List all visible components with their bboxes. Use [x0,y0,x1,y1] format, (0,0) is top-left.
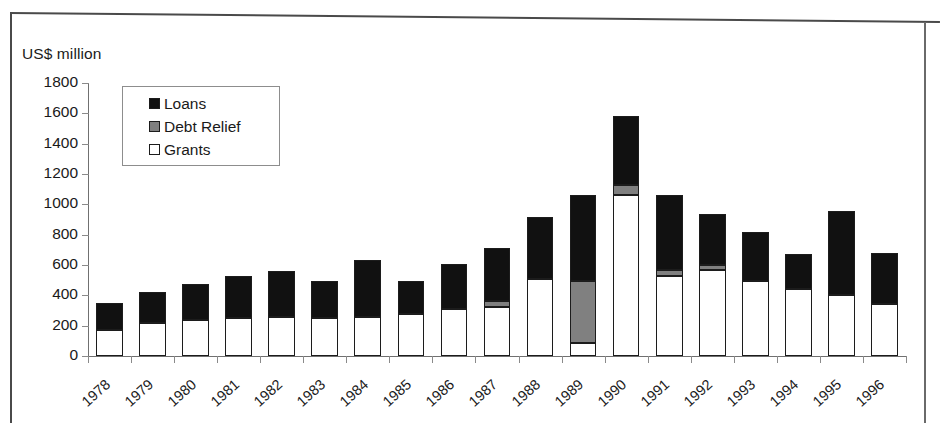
bar-1992 [699,214,726,356]
x-axis-tick [389,356,390,363]
bar-1991 [656,195,683,356]
x-axis-tick-label: 1983 [293,376,328,409]
bar-segment-grants [527,279,554,356]
y-axis-tick [82,174,89,175]
plot-area: 0200400600800100012001400160018001978197… [0,0,940,423]
x-axis-tick-label: 1990 [595,376,630,409]
bar-segment-loans [311,281,338,318]
y-axis-tick [82,83,89,84]
y-axis-tick-label: 800 [8,225,78,243]
bar-segment-grants [871,304,898,356]
bar-1979 [139,292,166,356]
x-axis-tick-label: 1996 [853,376,888,409]
bar-segment-loans [96,303,123,330]
x-axis-tick-label: 1989 [552,376,587,409]
bar-segment-debt-relief [699,265,726,270]
bar-segment-grants [613,195,640,356]
bar-1981 [225,276,252,356]
bar-segment-loans [871,253,898,305]
bar-1987 [484,248,511,356]
y-axis-tick-label: 1800 [8,73,78,91]
x-axis-tick-label: 1984 [336,376,371,409]
bar-segment-loans [484,248,511,301]
y-axis-tick [82,295,89,296]
y-axis-tick-label: 200 [8,316,78,334]
x-axis-tick [303,356,304,363]
bar-segment-debt-relief [570,281,597,343]
bar-segment-debt-relief [613,185,640,196]
bar-segment-loans [139,292,166,322]
bar-segment-grants [96,330,123,356]
bar-segment-grants [182,320,209,356]
x-axis-tick [648,356,649,363]
bar-1983 [311,281,338,356]
bar-1982 [268,271,295,356]
x-axis-tick [691,356,692,363]
bar-segment-grants [398,314,425,356]
x-axis-tick-label: 1995 [810,376,845,409]
bar-segment-debt-relief [484,301,511,308]
bar-segment-loans [785,254,812,290]
x-axis-tick-label: 1992 [681,376,716,409]
legend-label-debt-relief: Debt Relief [164,118,241,136]
y-axis-tick [82,204,89,205]
y-axis-tick-label: 600 [8,255,78,273]
bar-1993 [742,232,769,356]
x-axis-tick-label: 1994 [767,376,802,409]
bar-segment-grants [268,317,295,356]
x-axis-tick-label: 1979 [121,376,156,409]
bar-segment-loans [441,264,468,309]
bar-1978 [96,303,123,356]
x-axis-tick [346,356,347,363]
bar-segment-grants [656,276,683,356]
bar-1986 [441,264,468,356]
bar-1995 [828,211,855,356]
bar-segment-loans [268,271,295,317]
x-axis-tick [820,356,821,363]
x-axis-tick [906,356,907,363]
bar-segment-loans [398,281,425,314]
x-axis-tick [734,356,735,363]
bar-1988 [527,217,554,356]
bar-1984 [354,260,381,356]
x-axis-tick-label: 1991 [638,376,673,409]
chart-figure: US$ million 0200400600800100012001400160… [0,0,940,423]
x-axis-tick-label: 1980 [164,376,199,409]
x-axis-tick-label: 1986 [422,376,457,409]
bar-segment-grants [742,281,769,356]
legend-item-debt-relief: Debt Relief [149,115,279,138]
x-axis-tick-label: 1978 [78,376,113,409]
x-axis-tick [174,356,175,363]
bar-segment-loans [742,232,769,281]
x-axis-tick [432,356,433,363]
bar-segment-loans [699,214,726,265]
legend-item-grants: Grants [149,138,279,161]
y-axis-tick [82,265,89,266]
bar-segment-loans [570,195,597,281]
bar-segment-loans [354,260,381,317]
black-square-icon [149,98,160,109]
chart-legend: Loans Debt Relief Grants [122,86,280,166]
bar-segment-grants [311,318,338,356]
bar-segment-grants [699,270,726,356]
x-axis-tick-label: 1993 [724,376,759,409]
y-axis-tick [82,144,89,145]
y-axis-tick-label: 0 [8,346,78,364]
bar-1994 [785,254,812,356]
bar-segment-grants [570,343,597,356]
legend-label-grants: Grants [164,141,211,159]
bar-1989 [570,195,597,356]
y-axis-tick-label: 1400 [8,134,78,152]
x-axis-tick [777,356,778,363]
y-axis-tick [82,235,89,236]
x-axis-line [88,356,906,357]
bar-segment-debt-relief [656,270,683,276]
x-axis-tick-label: 1981 [207,376,242,409]
bar-segment-loans [527,217,554,279]
x-axis-tick-label: 1987 [465,376,500,409]
bar-1985 [398,281,425,356]
bar-1996 [871,253,898,356]
bar-segment-loans [182,284,209,320]
bar-segment-grants [828,295,855,356]
bar-segment-grants [225,318,252,356]
